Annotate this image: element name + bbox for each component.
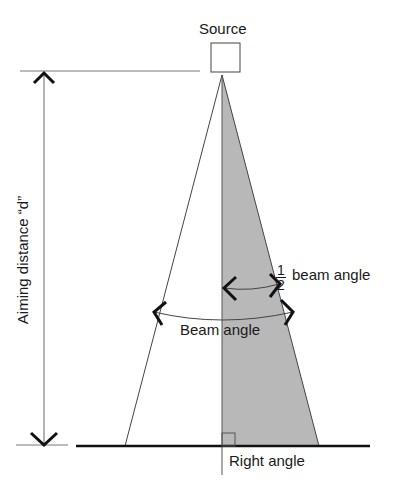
beam-angle-label: Beam angle: [180, 321, 260, 338]
half-fraction: 1 2: [276, 263, 286, 292]
aiming-distance-label: Aiming distance “d”: [14, 196, 31, 324]
source-box: [211, 43, 240, 72]
beam-left-edge: [125, 75, 222, 446]
fraction-denominator: 2: [276, 278, 286, 292]
half-beam-angle-label: beam angle: [292, 266, 370, 283]
right-angle-label: Right angle: [229, 452, 305, 469]
beam-diagram-canvas: [0, 0, 409, 500]
source-label: Source: [199, 20, 247, 37]
fraction-numerator: 1: [276, 263, 286, 278]
